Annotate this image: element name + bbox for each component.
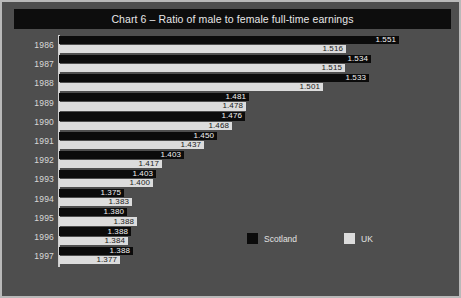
bar-group: 1.3881.377 [59,246,451,265]
bar-uk: 1.377 [59,256,120,264]
bar-uk: 1.516 [59,45,346,53]
bar-row: 19911.4501.437 [14,131,451,150]
bar-value-label: 1.437 [180,141,201,149]
year-label: 1995 [14,213,54,223]
bar-scotland: 1.481 [59,93,249,101]
bar-value-label: 1.478 [222,102,243,110]
bar-row: 19931.4031.400 [14,169,451,188]
bar-scotland: 1.375 [59,189,124,197]
year-label: 1997 [14,251,54,261]
bar-row: 19961.3881.384 [14,227,451,246]
bar-uk: 1.400 [59,179,153,187]
bar-row: 19861.5511.516 [14,35,451,54]
bar-row: 19941.3751.383 [14,189,451,208]
bar-uk: 1.437 [59,141,204,149]
bar-value-label: 1.375 [100,189,121,197]
bar-value-label: 1.383 [108,198,129,206]
bar-uk: 1.468 [59,122,232,130]
chart-title: Chart 6 – Ratio of male to female full-t… [111,13,353,25]
bar-value-label: 1.377 [96,256,117,264]
bar-group: 1.4031.417 [59,150,451,169]
year-label: 1990 [14,117,54,127]
bar-value-label: 1.384 [104,237,125,245]
bar-scotland: 1.551 [59,36,399,44]
bar-group: 1.5341.515 [59,54,451,73]
bar-uk: 1.515 [59,64,345,72]
bar-group: 1.5511.516 [59,35,451,54]
bar-group: 1.3751.383 [59,189,451,208]
bar-group: 1.5331.501 [59,73,451,92]
bar-group: 1.3801.388 [59,208,451,227]
bar-uk: 1.383 [59,198,132,206]
bar-value-label: 1.481 [225,93,246,101]
bar-row: 19971.3881.377 [14,246,451,265]
chart-frame: Chart 6 – Ratio of male to female full-t… [0,0,461,298]
bar-value-label: 1.533 [345,74,366,82]
bar-value-label: 1.400 [129,179,150,187]
bar-value-label: 1.450 [193,132,214,140]
bar-value-label: 1.417 [138,160,159,168]
bar-scotland: 1.403 [59,170,156,178]
bar-row: 19921.4031.417 [14,150,451,169]
year-label: 1992 [14,155,54,165]
bar-group: 1.4501.437 [59,131,451,150]
bar-group: 1.4811.478 [59,93,451,112]
bar-value-label: 1.403 [160,151,181,159]
chart-title-band: Chart 6 – Ratio of male to female full-t… [14,9,451,29]
bar-scotland: 1.450 [59,132,217,140]
bar-scotland: 1.388 [59,227,131,235]
bar-value-label: 1.380 [103,208,124,216]
year-label: 1991 [14,136,54,146]
bar-uk: 1.501 [59,83,323,91]
plot-area: 19861.5511.51619871.5341.51519881.5331.5… [14,35,451,280]
bar-uk: 1.384 [59,237,128,245]
bar-group: 1.4031.400 [59,169,451,188]
bar-group: 1.3881.384 [59,227,451,246]
bar-value-label: 1.516 [322,45,343,53]
bar-value-label: 1.515 [321,64,342,72]
bar-scotland: 1.533 [59,74,369,82]
bar-uk: 1.417 [59,160,162,168]
bar-uk: 1.388 [59,217,137,225]
bar-scotland: 1.534 [59,55,371,63]
bar-row: 19871.5341.515 [14,54,451,73]
bar-scotland: 1.403 [59,151,184,159]
bar-row: 19901.4761.468 [14,112,451,131]
bar-uk: 1.478 [59,102,246,110]
bar-value-label: 1.403 [132,170,153,178]
bar-value-label: 1.388 [107,228,128,236]
bar-value-label: 1.501 [299,83,320,91]
bar-scotland: 1.380 [59,208,127,216]
year-label: 1989 [14,98,54,108]
bar-value-label: 1.388 [113,218,134,226]
year-label: 1986 [14,40,54,50]
year-label: 1994 [14,194,54,204]
bar-value-label: 1.476 [221,112,242,120]
bar-row: 19951.3801.388 [14,208,451,227]
bar-value-label: 1.388 [109,247,130,255]
bar-group: 1.4761.468 [59,112,451,131]
year-label: 1993 [14,174,54,184]
bar-value-label: 1.551 [375,36,396,44]
bar-scotland: 1.388 [59,247,133,255]
bar-row: 19881.5331.501 [14,73,451,92]
bar-row: 19891.4811.478 [14,93,451,112]
bar-rows: 19861.5511.51619871.5341.51519881.5331.5… [14,35,451,265]
year-label: 1988 [14,78,54,88]
year-label: 1996 [14,232,54,242]
bar-scotland: 1.476 [59,112,245,120]
bar-value-label: 1.534 [347,55,368,63]
year-label: 1987 [14,59,54,69]
bar-value-label: 1.468 [208,122,229,130]
